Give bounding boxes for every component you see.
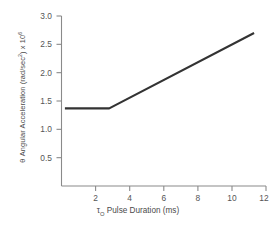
figure-caption xyxy=(0,226,276,234)
y-tick-label: 3.0 xyxy=(40,11,52,21)
x-axis-ticks xyxy=(96,186,266,191)
x-tick-label: 6 xyxy=(161,193,166,203)
y-tick-label: 0.5 xyxy=(40,153,52,163)
x-tick-label: 10 xyxy=(227,193,237,203)
x-tick-label: 8 xyxy=(196,193,201,203)
x-axis-title-rest: Pulse Duration (ms) xyxy=(105,206,180,215)
x-tick-label: 12 xyxy=(259,193,269,203)
y-tick-label: 1.5 xyxy=(40,96,52,106)
x-tick-label: 4 xyxy=(127,193,132,203)
y-tick-label: 2.0 xyxy=(40,68,52,78)
x-tick-label: 2 xyxy=(93,193,98,203)
data-series-line xyxy=(65,33,254,108)
y-tick-label: 1.0 xyxy=(40,124,52,134)
chart-plot-area: 3.0 2.5 2.0 1.5 1.0 0.5 2 4 6 8 10 12 xyxy=(0,0,276,234)
figure-container: θ Angular Acceleration (rad/sec2) x 106 … xyxy=(0,0,276,234)
x-axis-tick-labels: 2 4 6 8 10 12 xyxy=(93,193,269,203)
x-axis-title: τO Pulse Duration (ms) xyxy=(0,206,276,217)
y-tick-label: 2.5 xyxy=(40,39,52,49)
y-axis-ticks xyxy=(57,16,62,158)
y-axis-tick-labels: 3.0 2.5 2.0 1.5 1.0 0.5 xyxy=(40,11,52,163)
